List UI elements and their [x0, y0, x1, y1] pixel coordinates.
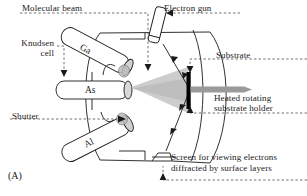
holder-rod-tip [244, 87, 252, 93]
label-substrate: Substrate [216, 50, 250, 61]
panel-letter: (A) [8, 170, 22, 181]
label-heated-holder-line2: substrate holder [214, 103, 273, 114]
al-cell-mount [119, 151, 145, 160]
knudsen-cell-al [59, 112, 145, 164]
beam-arrow-incident-1 [171, 56, 178, 63]
mbe-chamber-figure: Molecular beam Electron gun Knudsen cell… [0, 0, 307, 196]
substrate [187, 72, 191, 109]
ga-cell-mount [120, 33, 145, 39]
label-knudsen-cell-line2: cell [0, 48, 54, 59]
arrow-molecular-beam [145, 64, 152, 71]
ga-shutter-cap [119, 65, 130, 77]
label-screen-line1: Screen for viewing electrons [171, 152, 277, 163]
beam-arrow-diffracted-2 [170, 128, 177, 135]
label-molecular-beam: Molecular beam [22, 3, 82, 14]
leader-knudsen-cell [57, 46, 64, 72]
label-shutter: Shutter [12, 111, 39, 122]
arrow-screen [160, 173, 167, 180]
al-shutter-rod [101, 112, 114, 122]
as-cell-aperture [124, 81, 132, 99]
label-knudsen-cell-line1: Knudsen [0, 38, 54, 49]
label-screen-line2: diffracted by surface layers [171, 163, 272, 174]
substrate-holder-rod [191, 87, 245, 93]
label-heated-holder-line1: Heated rotating [214, 93, 271, 104]
molecular-beam-cone [131, 67, 188, 113]
cell-label-as: As [85, 85, 96, 95]
arrow-knudsen-cell [61, 70, 68, 77]
label-electron-gun: Electron gun [164, 3, 211, 14]
